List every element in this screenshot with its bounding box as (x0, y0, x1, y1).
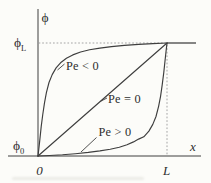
pe-positive-label: Pe > 0 (99, 125, 132, 139)
phi-0-tick-label: ϕ0 (13, 138, 24, 156)
pe-zero-label: Pe = 0 (108, 92, 141, 106)
phi-x-plot: ϕ x ϕL ϕ0 0 L Pe < 0 Pe = 0 Pe > 0 (0, 0, 211, 183)
x-axis-symbol: x (189, 139, 196, 154)
L-tick-label: L (162, 163, 170, 178)
phi-L-tick-label: ϕL (14, 35, 26, 53)
scan-smudge-artifact (12, 177, 144, 180)
plot-canvas: ϕ x ϕL ϕ0 0 L Pe < 0 Pe = 0 Pe > 0 (0, 0, 211, 183)
y-axis-symbol: ϕ (42, 10, 49, 25)
origin-tick-label: 0 (36, 163, 43, 178)
curve-pe-zero (38, 43, 167, 156)
pe-positive-leader-line (81, 138, 97, 153)
pe-negative-label: Pe < 0 (66, 59, 99, 73)
